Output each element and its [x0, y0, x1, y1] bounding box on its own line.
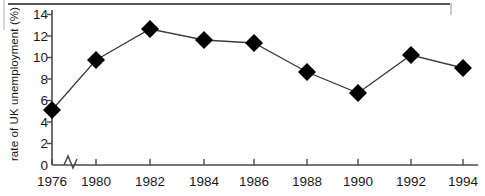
data-point-1994: [454, 59, 472, 77]
data-markers: [43, 20, 472, 119]
data-point-1984: [195, 31, 213, 49]
plot-area: [0, 0, 485, 196]
data-point-1990: [349, 84, 367, 102]
data-point-1982: [141, 20, 159, 38]
data-point-1988: [298, 63, 316, 81]
x-tick-marks: [52, 159, 463, 165]
data-point-1992: [402, 46, 420, 64]
unemployment-line-chart-figure: rate of UK unemployment (%) 14 12 10 8 6…: [0, 0, 485, 196]
data-point-1986: [245, 34, 263, 52]
x-axis-break-icon: [64, 156, 77, 168]
